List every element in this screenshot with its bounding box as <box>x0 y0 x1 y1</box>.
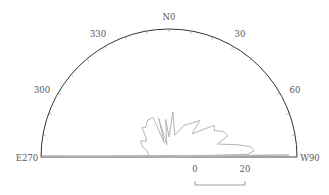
tick-mark <box>232 46 234 49</box>
tick-mark <box>265 75 267 77</box>
tick-mark <box>125 37 126 40</box>
tick-marks <box>41 29 297 157</box>
tick-mark <box>147 31 148 34</box>
rose-polygon <box>42 112 289 157</box>
label-60: 60 <box>290 85 301 95</box>
label-n0: N0 <box>163 12 176 22</box>
scale-bar: 0 20 <box>192 164 250 185</box>
tick-mark <box>249 59 251 61</box>
label-330: 330 <box>90 29 106 39</box>
label-w90: W90 <box>300 153 320 163</box>
tick-mark <box>87 59 89 61</box>
tick-mark <box>286 113 289 114</box>
tick-mark <box>43 135 46 136</box>
label-300: 300 <box>34 85 50 95</box>
label-30: 30 <box>235 29 246 39</box>
tick-mark <box>277 93 280 95</box>
rose-diagram: N0 330 30 300 60 E270 W90 0 20 <box>0 0 329 195</box>
scale-bar-start-label: 0 <box>192 164 197 174</box>
tick-mark <box>58 93 61 95</box>
scale-bar-end-label: 20 <box>240 164 251 174</box>
compass-arc <box>41 29 297 157</box>
label-e270: E270 <box>16 153 38 163</box>
tick-mark <box>71 75 73 77</box>
tick-mark <box>105 46 107 49</box>
tick-mark <box>49 113 52 114</box>
tick-mark <box>212 37 213 40</box>
tick-mark <box>292 135 295 136</box>
tick-mark <box>191 31 192 34</box>
